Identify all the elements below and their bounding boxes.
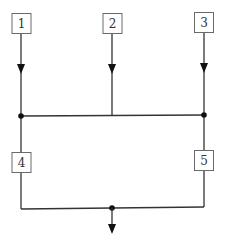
node-2: 2: [103, 14, 122, 34]
arrow-down-icon: [200, 63, 208, 73]
node-label: 4: [18, 156, 26, 170]
block-diagram: 1 2 3 4 5: [0, 0, 225, 244]
arrow-down-icon: [108, 64, 116, 74]
node-3: 3: [195, 13, 214, 33]
node-5: 5: [195, 151, 214, 171]
node-4: 4: [12, 153, 31, 173]
node-label: 2: [109, 17, 117, 31]
arrow-down-icon: [17, 64, 25, 74]
upper-bus: [21, 115, 204, 116]
node-label: 5: [200, 154, 208, 168]
arrow-down-icon: [108, 224, 116, 234]
junction-dot-right: [201, 112, 207, 118]
node-1: 1: [12, 14, 31, 34]
node-label: 3: [200, 16, 208, 30]
junction-dot-left: [18, 113, 24, 119]
node-label: 1: [18, 17, 26, 31]
